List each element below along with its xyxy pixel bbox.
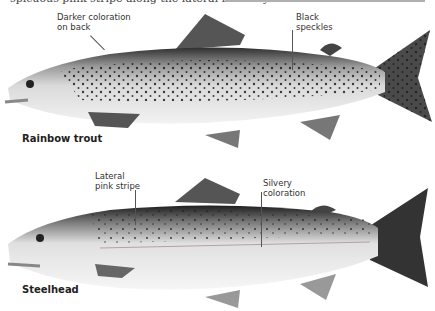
label-black-speckles: Black speckles <box>296 12 333 32</box>
fish-name-rainbow-trout: Rainbow trout <box>22 133 102 144</box>
leader-line <box>261 192 262 247</box>
label-silvery-coloration: Silvery coloration <box>263 178 305 198</box>
fish-name-steelhead: Steelhead <box>22 284 79 295</box>
label-darker-coloration: Darker coloration on back <box>57 12 131 32</box>
dorsal-fin-icon <box>175 14 245 50</box>
caption-rule <box>225 0 425 2</box>
leader-line <box>292 30 293 70</box>
leader-line <box>135 190 136 225</box>
label-lateral-pink-stripe: Lateral pink stripe <box>95 171 140 191</box>
